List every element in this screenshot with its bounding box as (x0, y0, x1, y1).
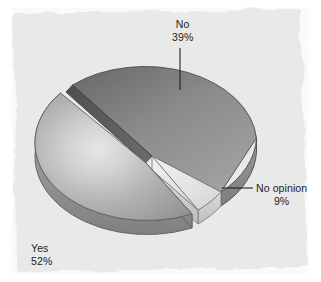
slice-label-yes-percent: 52% (31, 255, 52, 268)
slice-label-no-opinion: No opinion 9% (256, 182, 307, 207)
slice-label-no-opinion-name: No opinion (256, 182, 307, 194)
slice-label-no-opinion-percent: 9% (256, 195, 307, 208)
slice-label-yes-name: Yes (31, 242, 48, 254)
slice-label-yes: Yes 52% (31, 242, 52, 267)
pie-chart-figure: No 39% No opinion 9% Yes 52% (0, 0, 321, 282)
slice-label-no-name: No (176, 18, 190, 30)
slice-label-no-percent: 39% (172, 31, 193, 44)
pie-chart-graphic (0, 0, 321, 282)
slice-label-no: No 39% (172, 18, 193, 43)
